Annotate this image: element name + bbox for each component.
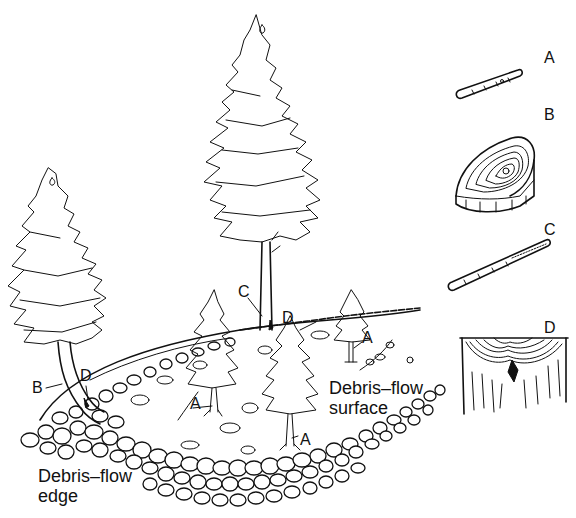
scar-callus-section-icon bbox=[460, 338, 568, 414]
legend-key-B: B bbox=[544, 107, 555, 123]
diagram-canvas bbox=[0, 0, 576, 518]
label-small-tree-A: A bbox=[362, 330, 373, 346]
caption-surface-line2: surface bbox=[329, 398, 423, 418]
legend-key-C: C bbox=[544, 222, 556, 238]
suppressed-growth-core-icon bbox=[448, 240, 550, 291]
label-mid-right-tree-A: A bbox=[300, 432, 311, 448]
tall-conifer-tree bbox=[204, 15, 320, 330]
caption-debris-flow-edge: Debris–flow edge bbox=[38, 466, 132, 506]
caption-edge-line2: edge bbox=[38, 486, 132, 506]
legend-key-A: A bbox=[544, 50, 555, 66]
label-left-tree-B: B bbox=[32, 380, 43, 396]
label-tall-tree-C: C bbox=[238, 284, 250, 300]
label-mid-left-tree-A: A bbox=[190, 396, 201, 412]
label-left-tree-D: D bbox=[80, 368, 92, 384]
mid-conifer-tree-right bbox=[262, 316, 318, 450]
caption-surface-line1: Debris–flow bbox=[329, 378, 423, 398]
tilted-core-icon bbox=[456, 70, 522, 99]
legend-key-D: D bbox=[544, 320, 556, 336]
small-conifer-tree-right bbox=[334, 290, 370, 362]
eccentric-ring-disk-icon bbox=[456, 137, 534, 212]
caption-debris-flow-surface: Debris–flow surface bbox=[329, 378, 423, 418]
label-tall-tree-D: D bbox=[282, 310, 294, 326]
caption-edge-line1: Debris–flow bbox=[38, 466, 132, 486]
